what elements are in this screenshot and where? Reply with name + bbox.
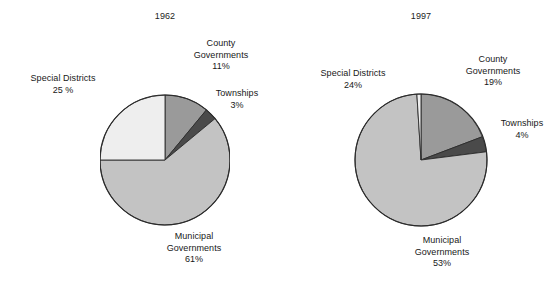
- pie-label-townships-name-1962: Townships: [216, 88, 258, 98]
- pie-label-county-name2-1997: Governments: [466, 66, 521, 76]
- pie-label-municipal-1997: Municipal Governments 53%: [390, 235, 494, 270]
- chart-title-1962: 1962: [105, 11, 225, 22]
- pie-label-special-pct-1962: 25 %: [12, 85, 114, 97]
- pie-label-special-name-1997: Special Districts: [321, 68, 386, 78]
- pie-label-county-name1-1997: County: [479, 54, 508, 64]
- pie-label-municipal-pct-1997: 53%: [390, 258, 494, 270]
- pie-label-townships-name-1997: Townships: [501, 118, 543, 128]
- chart-panel-1997: 1997 County Governments 19%: [270, 0, 550, 284]
- pie-label-county-name2-1962: Governments: [194, 50, 249, 60]
- pie-chart-figure: 1962 County Governments 11%: [0, 0, 550, 284]
- pie-label-county-1997: County Governments 19%: [455, 54, 531, 89]
- pie-slice-special-districts-1962: [100, 95, 165, 160]
- pie-label-townships-1962: Townships 3%: [200, 88, 274, 111]
- pie-label-county-name1-1962: County: [207, 38, 236, 48]
- pie-label-special-pct-1997: 24%: [302, 80, 404, 92]
- pie-label-municipal-name2-1997: Governments: [415, 247, 470, 257]
- pie-label-municipal-name2-1962: Governments: [167, 243, 222, 253]
- pie-slices-1997: [355, 94, 487, 226]
- pie-slices-1962: [100, 95, 230, 225]
- pie-1962: [100, 94, 230, 226]
- pie-label-special-districts-1962: Special Districts 25 %: [12, 73, 114, 96]
- pie-1997: [354, 93, 488, 227]
- chart-title-1997: 1997: [361, 11, 481, 22]
- pie-label-county-1962: County Governments 11%: [183, 38, 259, 73]
- pie-label-municipal-name1-1962: Municipal: [175, 231, 213, 241]
- pie-label-townships-pct-1962: 3%: [200, 100, 274, 112]
- pie-svg-1997: [354, 93, 488, 227]
- chart-panel-1962: 1962 County Governments 11%: [0, 0, 280, 284]
- pie-label-townships-1997: Townships 4%: [485, 118, 550, 141]
- pie-label-municipal-1962: Municipal Governments 61%: [142, 231, 246, 266]
- pie-label-municipal-pct-1962: 61%: [142, 254, 246, 266]
- pie-svg-1962: [100, 94, 230, 226]
- pie-label-municipal-name1-1997: Municipal: [423, 235, 461, 245]
- pie-label-county-pct-1997: 19%: [455, 77, 531, 89]
- pie-label-special-name-1962: Special Districts: [31, 73, 96, 83]
- pie-label-townships-pct-1997: 4%: [485, 130, 550, 142]
- pie-label-county-pct-1962: 11%: [183, 61, 259, 73]
- pie-label-special-districts-1997: Special Districts 24%: [302, 68, 404, 91]
